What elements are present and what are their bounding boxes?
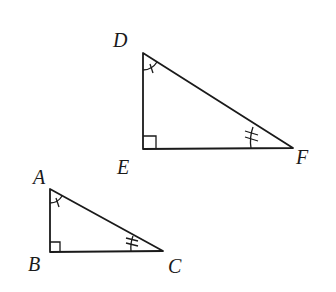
vertex-label-f: F xyxy=(295,146,309,168)
vertex-label-a: A xyxy=(31,166,46,188)
right-angle-marker-b xyxy=(50,242,60,252)
angle-arc-f xyxy=(250,127,253,148)
angle-arc-c xyxy=(131,236,133,251)
triangle-abc xyxy=(50,189,163,252)
angle-tick-c-2 xyxy=(126,243,138,246)
triangle-def-outline xyxy=(143,53,293,149)
vertex-label-b: B xyxy=(28,253,40,275)
vertex-label-d: D xyxy=(112,29,128,51)
triangle-abc-outline xyxy=(50,189,163,252)
vertex-label-e: E xyxy=(116,156,129,178)
similar-triangles-diagram: D E F A B C xyxy=(0,0,336,292)
right-angle-marker-e xyxy=(143,136,156,149)
triangle-def xyxy=(143,53,293,149)
angle-tick-f-2 xyxy=(245,137,258,141)
vertex-label-c: C xyxy=(168,255,182,277)
